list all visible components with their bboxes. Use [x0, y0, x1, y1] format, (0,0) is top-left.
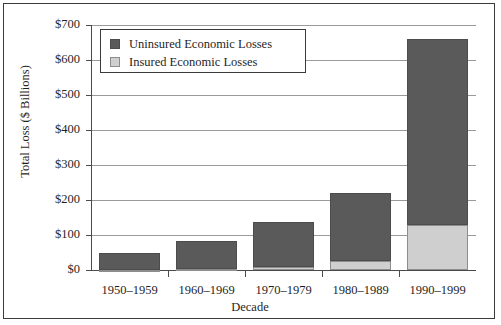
bar-segment-insured[interactable]	[330, 261, 391, 270]
bar-segment-insured[interactable]	[99, 270, 160, 273]
y-tick-label: $0	[34, 263, 80, 275]
y-tick-label: $100	[34, 228, 80, 240]
y-tick-mark	[86, 165, 92, 166]
y-tick-mark	[86, 200, 92, 201]
y-tick-label: $600	[34, 53, 80, 65]
bar-segment-insured[interactable]	[407, 225, 468, 271]
y-tick-label: $500	[34, 88, 80, 100]
legend-item-insured: Insured Economic Losses	[110, 53, 305, 71]
bar-segment-uninsured[interactable]	[99, 253, 160, 269]
bar-segment-uninsured[interactable]	[253, 222, 314, 268]
y-tick-mark	[86, 25, 92, 26]
y-tick-label: $400	[34, 123, 80, 135]
y-tick-label: $200	[34, 193, 80, 205]
y-tick-label: $700	[34, 18, 80, 30]
bar-1960–1969[interactable]	[176, 241, 237, 270]
y-axis-title: Total Loss ($ Billions)	[18, 22, 33, 222]
legend-label-insured: Insured Economic Losses	[129, 56, 257, 69]
y-tick-label: $300	[34, 158, 80, 170]
legend-swatch-uninsured-icon	[110, 39, 120, 49]
gridline	[91, 25, 476, 26]
x-tick-mark	[245, 270, 246, 277]
bar-1950–1959[interactable]	[99, 253, 160, 270]
bar-1970–1979[interactable]	[253, 222, 314, 270]
x-tick-mark	[399, 270, 400, 277]
legend-label-uninsured: Uninsured Economic Losses	[129, 38, 272, 51]
chart-legend: Uninsured Economic Losses Insured Econom…	[100, 29, 306, 73]
y-tick-mark	[86, 95, 92, 96]
x-axis-title: Decade	[4, 300, 496, 315]
bar-segment-uninsured[interactable]	[176, 241, 237, 269]
x-tick-mark	[322, 270, 323, 277]
x-tick-mark	[168, 270, 169, 277]
chart-frame: $0$100$200$300$400$500$600$700 1950–1959…	[3, 3, 495, 319]
y-tick-mark	[86, 270, 92, 271]
y-tick-mark	[86, 60, 92, 61]
x-tick-label: 1990–1999	[393, 283, 483, 297]
legend-item-uninsured: Uninsured Economic Losses	[110, 35, 305, 53]
bar-segment-insured[interactable]	[176, 269, 237, 272]
bar-segment-uninsured[interactable]	[407, 39, 468, 225]
bar-segment-insured[interactable]	[253, 267, 314, 270]
legend-swatch-insured-icon	[110, 57, 120, 67]
bar-1980–1989[interactable]	[330, 193, 391, 270]
bar-segment-uninsured[interactable]	[330, 193, 391, 261]
y-tick-mark	[86, 235, 92, 236]
y-tick-mark	[86, 130, 92, 131]
bar-1990–1999[interactable]	[407, 39, 468, 270]
